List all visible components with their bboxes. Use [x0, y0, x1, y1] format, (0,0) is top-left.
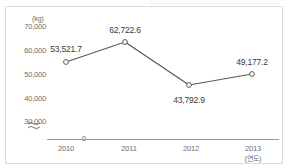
x-tick-label-2010: 2010 — [43, 144, 89, 153]
chart-figure-frame: (kg) 70,000 60,000 50,000 40,000 30,000 … — [5, 6, 283, 164]
x-tick-label-2012: 2012 — [168, 144, 214, 153]
data-point-marker-2010 — [64, 60, 69, 65]
x-tick-label-2011: 2011 — [106, 144, 152, 153]
x-axis-unit-label: (연도) — [230, 153, 276, 163]
chart-screenshot: (kg) 70,000 60,000 50,000 40,000 30,000 … — [0, 0, 290, 168]
cropped-element-remnant — [150, 0, 280, 4]
data-point-marker-2013 — [250, 72, 255, 77]
data-point-marker-2012 — [187, 83, 192, 88]
data-label-2013: 49,177.2 — [225, 57, 279, 67]
x-tick-label-2013: 2013 — [230, 144, 276, 153]
data-point-marker-2011 — [123, 40, 128, 45]
data-label-2010: 53,521.7 — [39, 44, 93, 54]
data-label-2012: 43,792.9 — [162, 95, 216, 105]
plot-area: (kg) 70,000 60,000 50,000 40,000 30,000 … — [6, 7, 284, 165]
data-label-2011: 62,722.6 — [98, 25, 152, 35]
